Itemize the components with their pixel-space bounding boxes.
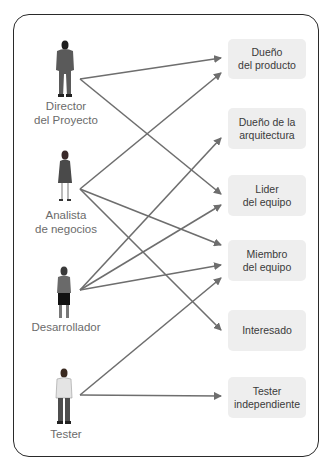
arrow-tester-miembro-equipo <box>80 278 221 395</box>
person-casual-icon <box>52 368 76 424</box>
actor-label: Director <box>20 99 112 113</box>
role-dueno-producto: Dueño del producto <box>228 39 306 79</box>
arrow-analista-dueno-producto <box>80 73 221 189</box>
role-miembro-equipo: Miembro del equipo <box>228 240 306 281</box>
role-interesado: Interesado <box>228 310 306 351</box>
arrow-director-lider-equipo <box>80 79 221 194</box>
role-label: Dueño del producto <box>238 46 296 72</box>
role-tester-independiente: Tester independiente <box>228 377 306 418</box>
actor-desarrollador: Desarrollador <box>20 320 112 334</box>
actor-tester: Tester <box>20 427 112 441</box>
role-label: Dueño de la arquitectura <box>239 116 296 142</box>
actor-label: del Proyecto <box>20 113 112 127</box>
person-dress-icon <box>54 150 76 202</box>
actor-analista: Analista de negocios <box>20 208 112 236</box>
person-suit-icon <box>52 40 78 98</box>
role-label: Tester independiente <box>234 385 300 411</box>
role-label: Miembro del equipo <box>243 248 291 274</box>
actor-label: Analista <box>20 208 112 222</box>
person-shorts-icon <box>53 266 75 320</box>
actor-label: Desarrollador <box>20 320 112 334</box>
role-label: Lider del equipo <box>243 183 291 209</box>
actor-director: Director del Proyecto <box>20 99 112 127</box>
actor-label: de negocios <box>20 222 112 236</box>
arrow-director-dueno-producto <box>80 58 221 79</box>
role-lider-equipo: Lider del equipo <box>228 175 306 216</box>
role-dueno-arquitectura: Dueño de la arquitectura <box>228 108 306 149</box>
actor-label: Tester <box>20 427 112 441</box>
arrow-tester-tester-independiente <box>80 395 221 396</box>
role-label: Interesado <box>242 324 292 337</box>
